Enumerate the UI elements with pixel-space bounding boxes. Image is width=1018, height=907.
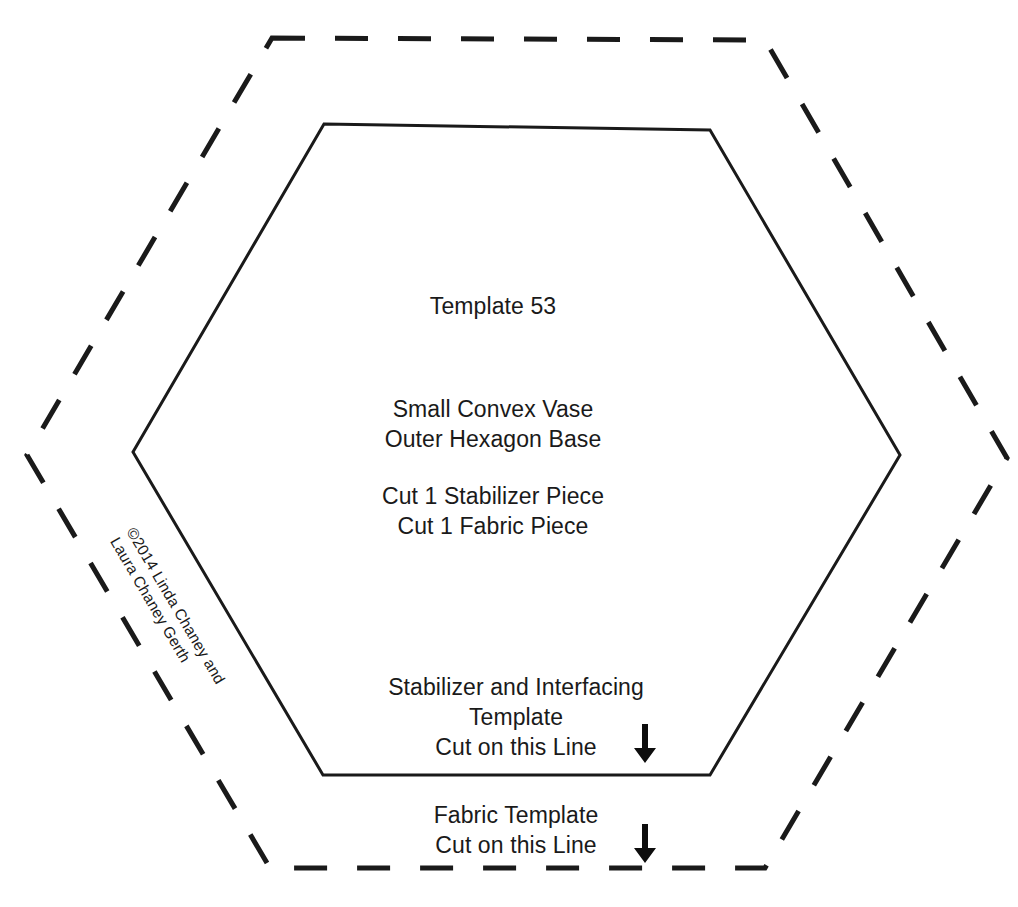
stabilizer-line-3: Cut on this Line — [388, 732, 644, 762]
down-arrow-icon — [632, 824, 658, 864]
stabilizer-cut-instruction: Stabilizer and Interfacing Template Cut … — [388, 672, 644, 762]
template-sheet: Template 53 Small Convex Vase Outer Hexa… — [0, 0, 1018, 907]
stabilizer-line-2: Template — [388, 702, 644, 732]
piece-name-label: Small Convex Vase Outer Hexagon Base — [385, 394, 602, 454]
fabric-cut-instruction: Fabric Template Cut on this Line — [434, 800, 599, 860]
piece-name-line-2: Outer Hexagon Base — [385, 424, 602, 454]
fabric-line-2: Cut on this Line — [434, 830, 599, 860]
down-arrow-icon — [632, 724, 658, 764]
fabric-line-1: Fabric Template — [434, 800, 599, 830]
template-number-text: Template 53 — [430, 291, 556, 321]
template-number-label: Template 53 — [430, 291, 556, 321]
stabilizer-line-1: Stabilizer and Interfacing — [388, 672, 644, 702]
cut-count-label: Cut 1 Stabilizer Piece Cut 1 Fabric Piec… — [382, 481, 604, 541]
cut-count-line-1: Cut 1 Stabilizer Piece — [382, 481, 604, 511]
piece-name-line-1: Small Convex Vase — [385, 394, 602, 424]
cut-count-line-2: Cut 1 Fabric Piece — [382, 511, 604, 541]
